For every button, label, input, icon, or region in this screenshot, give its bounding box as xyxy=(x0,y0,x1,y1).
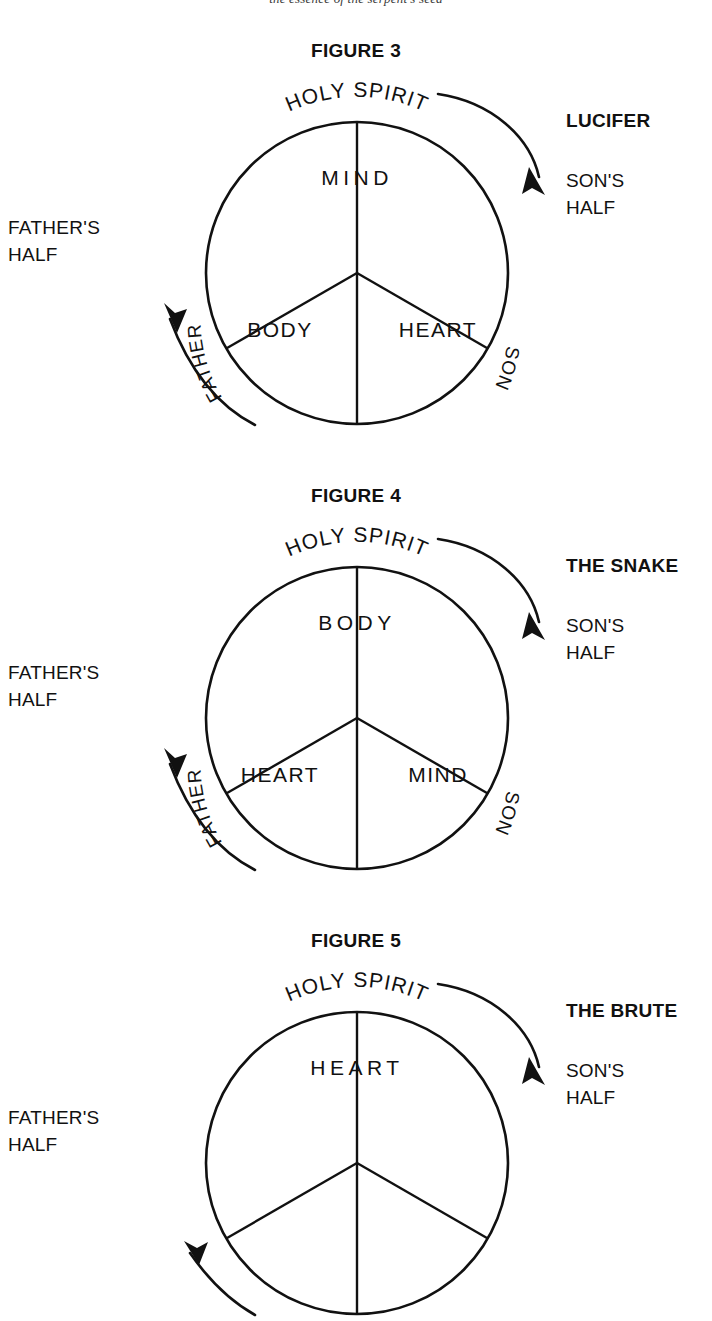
segment-label-top: BODY xyxy=(318,611,396,634)
segment-label-top: MIND xyxy=(321,166,393,189)
holy-spirit-arc-label: HOLY SPIRIT xyxy=(282,78,432,116)
spoke-lower-right xyxy=(357,1163,488,1239)
segment-label-bottom-right: HEART xyxy=(399,318,477,341)
figure-title: FIGURE 3 xyxy=(0,40,712,62)
clockwise-arrow xyxy=(438,539,545,640)
clockwise-arrow xyxy=(438,984,545,1085)
holy-spirit-arc-label: HOLY SPIRIT xyxy=(282,523,432,561)
counterclockwise-arrow xyxy=(184,1241,255,1315)
figure-title: FIGURE 4 xyxy=(0,485,712,507)
figure-block-4: FIGURE 4 FATHER'S HALF THE SNAKE SON'S H… xyxy=(0,445,712,900)
clockwise-arrow xyxy=(438,94,545,195)
segment-label-bottom-left: BODY xyxy=(247,318,313,341)
wheel-diagram-3: MIND BODY HEART HOLY SPIRIT FATHER SON xyxy=(120,75,592,455)
figure-block-3: FIGURE 3 FATHER'S HALF LUCIFER SON'S HAL… xyxy=(0,0,712,455)
holy-spirit-arc-label: HOLY SPIRIT xyxy=(282,968,432,1006)
son-arc-label: SON xyxy=(491,790,524,839)
wheel-diagram-4: BODY HEART MIND HOLY SPIRIT FATHER SON xyxy=(120,520,592,900)
segment-label-bottom-left: HEART xyxy=(241,763,319,786)
segment-label-top: HEART xyxy=(310,1056,403,1079)
figure-title: FIGURE 5 xyxy=(0,930,712,952)
son-arc-label: SON xyxy=(491,345,524,394)
segment-label-bottom-right: MIND xyxy=(408,763,468,786)
wheel-diagram-5: HEART HOLY SPIRIT xyxy=(120,965,592,1321)
figure-block-5: FIGURE 5 FATHER'S HALF THE BRUTE SON'S H… xyxy=(0,890,712,1183)
spoke-lower-left xyxy=(226,1163,357,1239)
